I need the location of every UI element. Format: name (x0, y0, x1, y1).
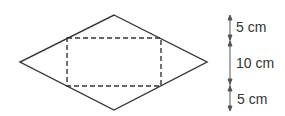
dimension-label-bottom: 5 cm (237, 92, 267, 106)
arrow-down-icon (228, 106, 232, 111)
dimension-label-top: 5 cm (236, 20, 266, 34)
arrow-up-icon (228, 41, 232, 46)
arrow-down-icon (228, 79, 232, 84)
arrow-up-icon (228, 15, 232, 20)
dimension-label-middle: 10 cm (236, 56, 274, 70)
dimension-line (228, 15, 232, 111)
arrow-up-icon (228, 86, 232, 91)
arrow-down-icon (228, 35, 232, 40)
dashed-rectangle (67, 38, 161, 86)
rhombus (20, 15, 207, 110)
